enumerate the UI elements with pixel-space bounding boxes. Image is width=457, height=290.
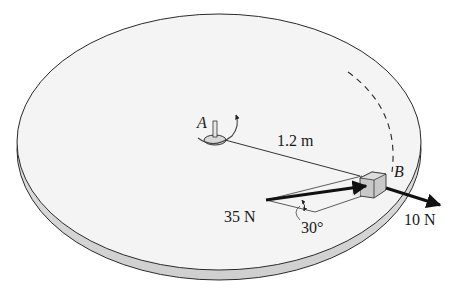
label-radius: 1.2 m (277, 132, 314, 149)
label-point-b: B (394, 163, 404, 180)
diagram-canvas: A B 1.2 m 35 N 10 N 30° (0, 0, 457, 290)
disk (17, 14, 421, 280)
label-force-35n: 35 N (224, 208, 256, 225)
label-force-10n: 10 N (404, 211, 436, 228)
label-point-a: A (196, 114, 207, 131)
label-angle: 30° (301, 219, 323, 236)
